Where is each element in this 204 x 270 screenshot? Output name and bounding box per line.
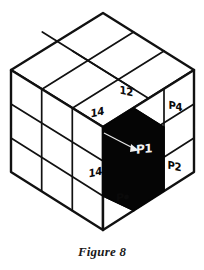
label-notch-p1: P1: [136, 142, 152, 156]
figure-caption: Figure 8: [0, 244, 204, 260]
label-left-lower: 14: [89, 166, 102, 180]
figure-8-illustration: 12 14 14 P4 P2 P P1 Figure 8: [0, 0, 204, 270]
label-bottom-vertex: P: [116, 191, 129, 203]
isometric-cube-drawing: [0, 0, 204, 244]
label-right-lower: P2: [168, 160, 182, 174]
label-bottom-text: P: [116, 191, 124, 205]
removed-cube-notch: [103, 108, 164, 211]
label-top-face: 12: [120, 85, 133, 99]
label-right-upper: P4: [169, 100, 183, 114]
filled-dot-icon: [124, 194, 129, 200]
label-left-upper: 14: [91, 106, 104, 120]
